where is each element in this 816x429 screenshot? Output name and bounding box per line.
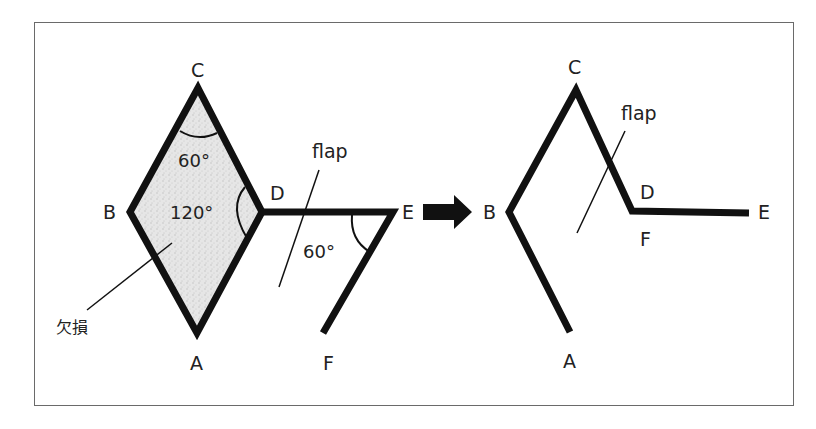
angle-label-e: 60° [303, 241, 335, 262]
point-label-c: C [191, 59, 204, 81]
flap-line [262, 212, 393, 333]
point-label-c-right: C [568, 56, 581, 78]
left-figure: C B D A E F 60° 120° 60° flap 欠損 [56, 59, 414, 374]
defect-label: 欠損 [56, 318, 88, 337]
point-label-f-right: F [640, 228, 651, 250]
diagram-canvas: C B D A E F 60° 120° 60° flap 欠損 C B D F… [0, 0, 816, 429]
point-label-a-right: A [563, 350, 576, 372]
point-label-a: A [190, 352, 203, 374]
right-figure: C B D F E A flap [483, 56, 770, 372]
closed-wound-line [509, 90, 749, 332]
point-label-b-right: B [483, 201, 496, 223]
defect-leader-line [87, 243, 172, 310]
angle-label-d: 120° [170, 202, 213, 223]
point-label-b: B [103, 201, 116, 223]
flap-label: flap [312, 140, 348, 162]
point-label-d-right: D [640, 181, 655, 203]
point-label-d: D [270, 182, 285, 204]
angle-arc-e [352, 215, 370, 252]
angle-label-c: 60° [178, 150, 210, 171]
point-label-f: F [323, 352, 334, 374]
flap-label-right: flap [621, 102, 657, 124]
right-arrow-icon [423, 195, 472, 229]
point-label-e: E [402, 201, 414, 223]
point-label-e-right: E [758, 201, 770, 223]
flap-leader-line [279, 170, 319, 287]
